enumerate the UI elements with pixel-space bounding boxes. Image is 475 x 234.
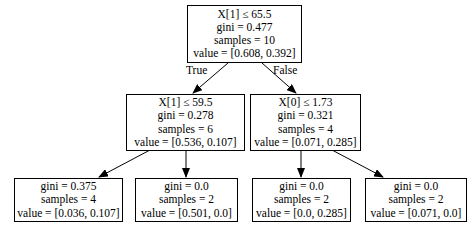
leaf-gini: gini = 0.375 xyxy=(40,180,96,193)
edge-left-leaf1 xyxy=(99,150,150,177)
node-value: value = [0.071, 0.285] xyxy=(254,136,356,149)
leaf-value: value = [0.071, 0.0] xyxy=(371,207,462,220)
tree-leaf-3: gini = 0.0 samples = 2 value = [0.0, 0.2… xyxy=(252,178,351,222)
node-gini: gini = 0.321 xyxy=(277,109,333,122)
edge-right-leaf4 xyxy=(332,150,383,177)
leaf-value: value = [0.036, 0.107] xyxy=(17,207,119,220)
leaf-value: value = [0.501, 0.0] xyxy=(141,207,232,220)
leaf-samples: samples = 2 xyxy=(274,193,329,206)
leaf-value: value = [0.0, 0.285] xyxy=(256,207,347,220)
node-samples: samples = 10 xyxy=(214,34,275,47)
leaf-gini: gini = 0.0 xyxy=(164,180,209,193)
tree-leaf-1: gini = 0.375 samples = 4 value = [0.036,… xyxy=(14,178,123,222)
node-gini: gini = 0.477 xyxy=(216,21,272,34)
leaf-samples: samples = 2 xyxy=(388,193,443,206)
leaf-samples: samples = 4 xyxy=(41,193,96,206)
tree-node-right: X[0] ≤ 1.73 gini = 0.321 samples = 4 val… xyxy=(250,94,361,151)
node-value: value = [0.536, 0.107] xyxy=(134,136,236,149)
node-condition: X[1] ≤ 65.5 xyxy=(218,8,272,21)
leaf-gini: gini = 0.0 xyxy=(394,180,439,193)
tree-leaf-4: gini = 0.0 samples = 2 value = [0.071, 0… xyxy=(365,178,467,222)
edge-label-false: False xyxy=(273,64,297,76)
edge-label-true: True xyxy=(186,64,207,76)
leaf-samples: samples = 2 xyxy=(159,193,214,206)
node-condition: X[0] ≤ 1.73 xyxy=(279,96,333,109)
tree-leaf-2: gini = 0.0 samples = 2 value = [0.501, 0… xyxy=(135,178,238,222)
tree-node-root: X[1] ≤ 65.5 gini = 0.477 samples = 10 va… xyxy=(187,5,302,63)
node-condition: X[1] ≤ 59.5 xyxy=(159,96,213,109)
node-value: value = [0.608, 0.392] xyxy=(193,47,295,60)
leaf-gini: gini = 0.0 xyxy=(279,180,324,193)
node-samples: samples = 4 xyxy=(278,123,333,136)
tree-node-left: X[1] ≤ 59.5 gini = 0.278 samples = 6 val… xyxy=(126,94,245,151)
node-gini: gini = 0.278 xyxy=(157,109,213,122)
node-samples: samples = 6 xyxy=(158,123,213,136)
